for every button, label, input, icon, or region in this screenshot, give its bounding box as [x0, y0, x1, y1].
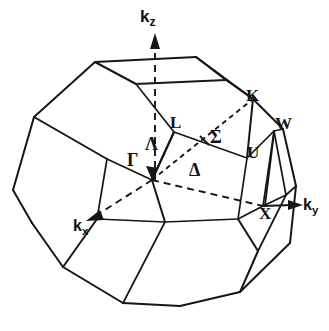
ky-axis-label: ky: [303, 197, 318, 217]
kx-subscript: x: [82, 225, 88, 237]
ky-subscript: y: [312, 204, 318, 216]
sigma-line-label: Σ: [210, 128, 222, 146]
brillouin-zone-figure: kz ky kx Γ Λ L Σ K W U Δ X: [0, 0, 329, 331]
k-point-label: K: [246, 87, 259, 104]
gamma-point-label: Γ: [127, 151, 138, 169]
brillouin-zone-drawing: [0, 0, 329, 331]
w-x-segment: [265, 133, 274, 205]
kz-axis-label: kz: [140, 8, 156, 29]
kx-axis-label: kx: [73, 218, 88, 238]
w-point-label: W: [275, 115, 292, 132]
sigma-line-path: [152, 99, 253, 180]
kx-base: k: [73, 217, 82, 234]
kz-arrowhead: [150, 33, 160, 49]
delta-line-label: Δ: [189, 161, 200, 179]
u-point-label: U: [247, 144, 259, 161]
ky-arrowhead: [288, 200, 303, 210]
kx-arrowhead: [86, 210, 104, 221]
ky-base: k: [303, 196, 312, 213]
front-bottom-hexagon: [123, 219, 258, 303]
l-point-label: L: [170, 114, 181, 131]
delta-line-path: [152, 180, 263, 206]
kx-axis: [86, 180, 152, 221]
lambda-line-label: Λ: [145, 135, 158, 153]
x-point-label: X: [259, 205, 271, 222]
kz-subscript: z: [149, 15, 155, 29]
